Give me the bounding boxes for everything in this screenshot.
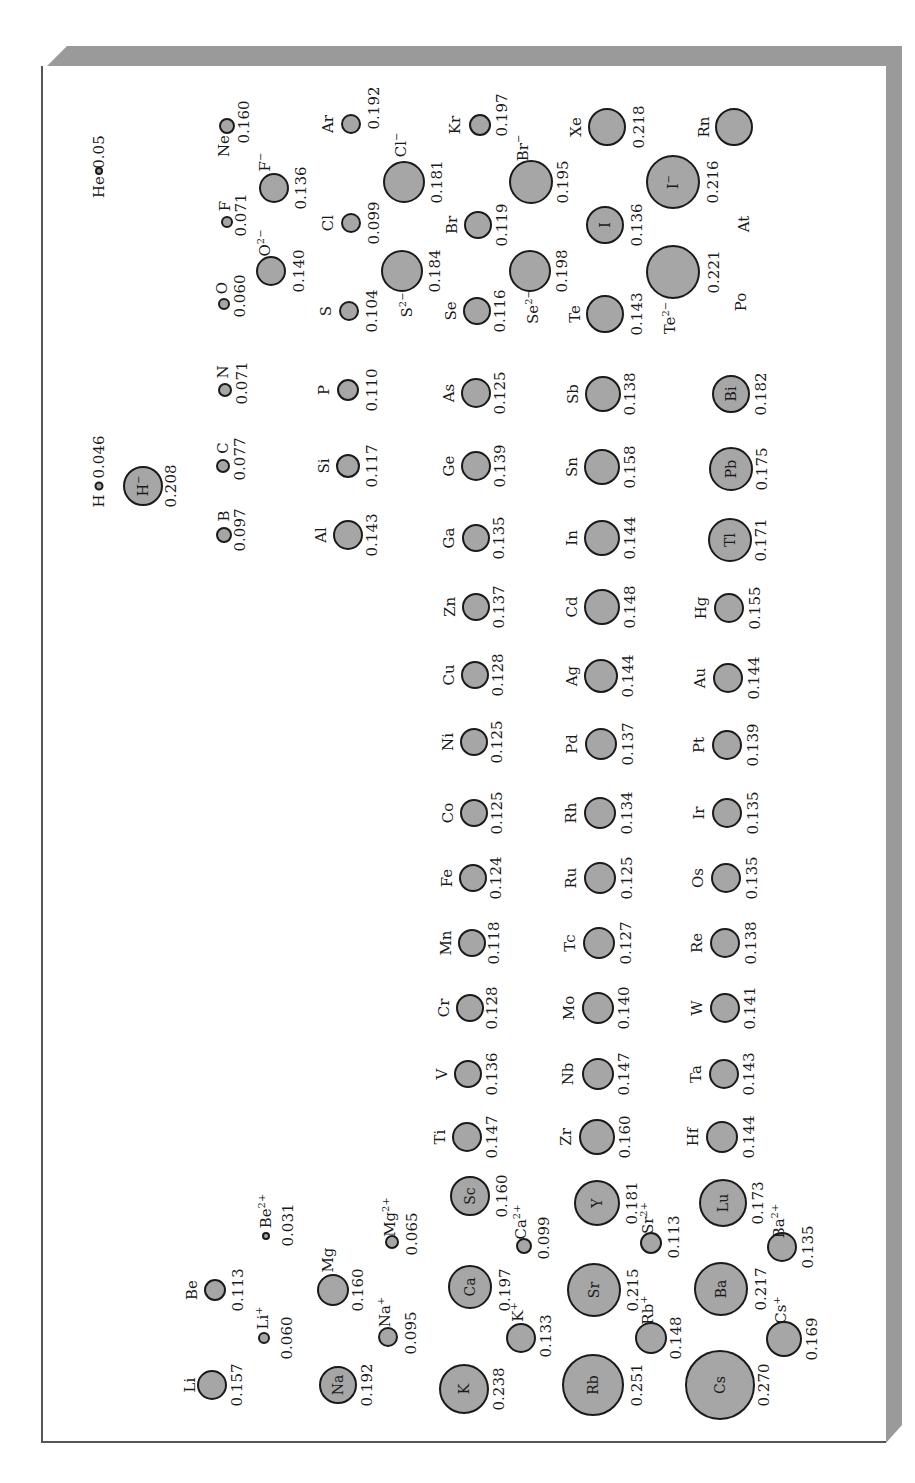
atom-symbol-hg: Hg (694, 597, 709, 620)
atom-symbol-ti: Ti (433, 1130, 448, 1145)
atom-circle-cs: Cs (685, 1350, 755, 1420)
atom-symbol-mg: Mg (321, 1248, 336, 1273)
radius-value-co: 0.125 (490, 792, 505, 835)
atom-circle-as (461, 378, 491, 408)
atom-circle-na-plus (378, 1327, 398, 1347)
atom-circle-hf (706, 1121, 738, 1153)
atom-symbol-li: Li (183, 1378, 198, 1393)
page-shadow-right (886, 46, 902, 1443)
radius-value-lu: 0.173 (751, 1182, 766, 1225)
radius-value-na-plus: 0.095 (404, 1312, 419, 1355)
atom-symbol-se: Se (444, 301, 459, 320)
radius-value-pd: 0.137 (621, 723, 636, 766)
radius-value-cd: 0.148 (623, 586, 638, 629)
radius-value-ne: 0.160 (237, 101, 252, 144)
atom-symbol-h: H (92, 494, 107, 507)
atom-symbol-as: As (442, 384, 457, 403)
atom-symbol-ru: Ru (564, 868, 579, 889)
radius-value-tc: 0.127 (619, 922, 634, 965)
radius-value-in: 0.144 (623, 517, 638, 560)
atom-circle-se2-minus (509, 250, 551, 292)
atom-circle-s2-minus (381, 250, 423, 292)
radius-value-h: 0.046 (92, 436, 107, 479)
atom-circle-s (339, 301, 359, 321)
atom-symbol-se2-minus: Se2− (526, 290, 541, 324)
atom-circle-li-plus (258, 1332, 270, 1344)
atom-symbol-pd: Pd (565, 734, 580, 754)
atom-symbol-i-minus: I− (666, 175, 680, 189)
radius-value-cu: 0.128 (491, 654, 506, 697)
atom-symbol-al: Al (314, 527, 329, 543)
radius-value-cs: 0.270 (757, 1364, 772, 1407)
atom-symbol-tl: Tl (723, 533, 737, 547)
atom-symbol-sb: Sb (566, 384, 581, 404)
radius-value-f: 0.071 (234, 194, 249, 237)
radius-value-s: 0.104 (365, 290, 380, 333)
atom-circle-sc: Sc (450, 1176, 490, 1216)
atom-circle-p (337, 379, 359, 401)
atom-symbol-ga: Ga (442, 528, 457, 549)
atom-symbol-ag: Ag (565, 666, 580, 686)
radius-value-o2-minus: 0.140 (292, 250, 307, 293)
radius-value-w: 0.141 (743, 987, 758, 1030)
radius-value-bi: 0.182 (754, 373, 769, 416)
radius-value-mo: 0.140 (617, 987, 632, 1030)
radius-value-cs-plus: 0.169 (805, 1318, 820, 1361)
atom-symbol-rb: Rb (586, 1375, 600, 1395)
atom-circle-mg2-plus (385, 1235, 399, 1249)
atom-symbol-ar: Ar (321, 115, 336, 133)
atom-circle-cl-minus (383, 161, 425, 203)
atom-circle-in (584, 520, 620, 556)
radius-value-au: 0.144 (747, 657, 762, 700)
atom-symbol-cd: Cd (565, 596, 580, 617)
atom-symbol-y: Y (590, 1198, 604, 1207)
radius-value-p: 0.110 (365, 369, 380, 412)
atom-circle-al (333, 520, 363, 550)
atom-circle-sb (585, 376, 621, 412)
atom-symbol-os: Os (691, 868, 706, 888)
atom-circle-te2-minus (646, 245, 700, 299)
atom-symbol-o: O (215, 282, 230, 294)
atom-circle-na: Na (319, 1366, 357, 1404)
atom-circle-mg (317, 1274, 349, 1306)
atom-circle-zr (579, 1119, 615, 1155)
atom-circle-tl: Tl (708, 518, 752, 562)
atom-circle-bi: Bi (712, 375, 750, 413)
atom-circle-mn (458, 929, 486, 957)
radius-value-rb: 0.251 (630, 1364, 645, 1407)
radius-value-c: 0.077 (233, 438, 248, 481)
atom-symbol-o2-minus: O2− (258, 229, 273, 256)
atom-symbol-s: S (319, 306, 334, 316)
radius-value-li: 0.157 (230, 1364, 245, 1407)
atom-circle-sr2-plus (640, 1232, 662, 1254)
atom-circle-ni (460, 728, 488, 756)
radius-value-ba2-plus: 0.135 (801, 1226, 816, 1269)
radius-value-k-plus: 0.133 (539, 1315, 554, 1358)
atom-symbol-pt: Pt (692, 737, 707, 753)
radius-value-ba: 0.217 (754, 1268, 769, 1311)
atom-symbol-ne: Ne (217, 135, 232, 157)
radius-value-na: 0.192 (360, 1364, 375, 1407)
atom-symbol-si: Si (317, 458, 332, 473)
atom-circle-i: I (586, 206, 624, 244)
atom-symbol-mg2-plus: Mg2+ (383, 1197, 398, 1237)
page-shadow-top (47, 46, 902, 66)
atom-circle-co (460, 799, 488, 827)
atom-circle-rh (584, 797, 616, 829)
radius-value-be2-plus: 0.031 (281, 1204, 296, 1247)
atom-symbol-cl-minus: Cl− (394, 133, 409, 158)
atom-symbol-na: Na (331, 1375, 345, 1396)
atom-circle-rb-plus (635, 1322, 667, 1354)
atom-circle-mo (582, 992, 614, 1024)
atom-circle-lu: Lu (699, 1179, 747, 1227)
atom-symbol-mn: Mn (439, 930, 454, 955)
atom-symbol-lu: Lu (716, 1194, 730, 1212)
atom-circle-o2-minus (256, 256, 286, 286)
radius-value-re: 0.138 (744, 922, 759, 965)
radius-value-k: 0.238 (492, 1368, 507, 1411)
atom-circle-ge (461, 451, 491, 481)
atom-circle-ag (584, 659, 618, 693)
radius-value-n: 0.071 (235, 362, 250, 405)
radius-value-mn: 0.118 (487, 922, 502, 965)
atom-circle-li (197, 1370, 227, 1400)
